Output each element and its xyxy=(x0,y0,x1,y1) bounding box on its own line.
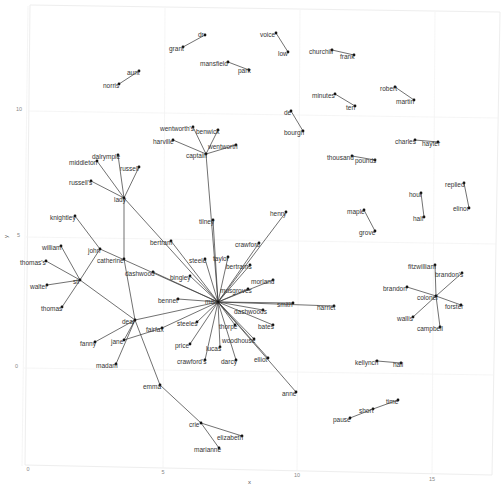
node-label: fairfax xyxy=(146,326,164,333)
node-label: darcy xyxy=(221,358,238,366)
node-label: bertrams xyxy=(226,263,252,270)
node-label: tilney xyxy=(199,218,215,226)
panel-border xyxy=(25,5,500,475)
node-label: thomas xyxy=(41,305,63,312)
x-axis-title: x xyxy=(248,479,251,485)
node-label: jane xyxy=(110,338,124,346)
node-label: fanny xyxy=(80,340,97,348)
node-label: marianne xyxy=(194,446,221,453)
node-label: dashwoods xyxy=(234,308,268,315)
y-axis-title: y xyxy=(3,235,9,238)
node-label: martin xyxy=(396,98,414,105)
node-label: dear xyxy=(122,318,136,325)
node-label: low xyxy=(278,50,288,57)
node-label: benwick xyxy=(196,128,220,135)
node-label: bourgh xyxy=(284,129,305,137)
node-label: crawford xyxy=(235,241,260,248)
node-label: crawford's xyxy=(177,358,207,365)
node-label: voice xyxy=(260,31,276,38)
x-tick-label: 10 xyxy=(294,472,300,478)
node-label: wentworth's xyxy=(159,125,195,132)
x-tick-label: 5 xyxy=(161,469,164,475)
node-label: hayter xyxy=(422,140,441,148)
node-label: john xyxy=(87,247,101,255)
node-label: harville xyxy=(153,138,174,145)
node-label: catherine xyxy=(97,257,124,264)
node-label: campbell xyxy=(417,325,444,333)
node-label: steele xyxy=(189,257,207,264)
node-label: wentworth xyxy=(207,143,238,150)
node-label: dashwood xyxy=(125,270,155,277)
node-label: hall xyxy=(393,361,404,368)
node-label: emma xyxy=(143,383,161,390)
node-label: thomas's xyxy=(20,259,47,266)
node-label: miss xyxy=(205,298,219,305)
node-label: taylor xyxy=(213,255,230,263)
node-label: robert xyxy=(380,85,397,92)
node-label: norris xyxy=(103,82,120,89)
node-label: madam xyxy=(96,362,118,369)
node-label: grant xyxy=(169,45,184,53)
node-label: bertram xyxy=(150,239,172,246)
node-label: forster xyxy=(445,303,464,310)
node-label: walter xyxy=(29,283,48,290)
node-label: anne xyxy=(282,390,297,397)
node-label: elliot xyxy=(254,356,268,363)
node-label: smith xyxy=(277,301,293,308)
node-label: bennet xyxy=(158,297,178,304)
node-label: pause xyxy=(333,416,351,424)
node-label: time xyxy=(386,398,399,405)
node-label: bates xyxy=(258,323,275,330)
node-label: half xyxy=(413,215,424,222)
node-label: thousand xyxy=(327,154,354,161)
node-label: kellynch xyxy=(355,359,379,367)
node-label: aunt xyxy=(127,69,140,76)
node-label: captain xyxy=(186,152,207,160)
node-label: ten xyxy=(346,104,355,111)
node-label: park xyxy=(238,67,251,75)
node-label: russell's xyxy=(69,179,93,186)
node-label: lucas xyxy=(206,345,222,352)
node-label: minutes xyxy=(312,92,336,99)
node-label: price xyxy=(175,342,189,350)
node-label: thorpe xyxy=(219,323,238,331)
node-crie xyxy=(200,422,203,425)
y-tick-label: 0 xyxy=(15,363,18,369)
node-label: mansfield xyxy=(200,60,228,67)
node-label: crie xyxy=(189,421,200,428)
node-label: lady xyxy=(114,196,127,204)
node-dr xyxy=(204,34,207,37)
node-label: brandon's xyxy=(435,271,464,278)
node-label: sir xyxy=(73,278,81,285)
node-label: charles xyxy=(395,138,417,145)
network-plot: missladycaptainsirdearcolonelcriejohncat… xyxy=(0,0,501,487)
node-label: woodhouse xyxy=(221,337,256,344)
node-label: de xyxy=(284,109,292,116)
x-tick-label: 0 xyxy=(26,466,29,472)
node-label: elinor xyxy=(453,205,470,212)
node-label: hour xyxy=(409,191,423,198)
node-label: fitzwilliam xyxy=(408,263,436,270)
node-label: morland xyxy=(251,278,275,285)
node-label: short xyxy=(359,407,374,414)
node-label: henry xyxy=(270,210,287,218)
node-label: middleton xyxy=(69,159,98,166)
node-label: wallis xyxy=(396,315,414,322)
node-label: russell xyxy=(120,165,139,172)
node-label: grove xyxy=(359,229,376,237)
node-label: colonel xyxy=(417,294,438,301)
node-label: bingley xyxy=(170,274,191,282)
node-label: churchill xyxy=(309,48,333,55)
node-label: maple xyxy=(347,208,365,216)
node-label: william xyxy=(41,244,62,251)
node-label: pounds xyxy=(355,157,377,165)
node-label: replied xyxy=(445,181,465,189)
node-label: dr xyxy=(198,31,205,38)
node-label: harriet xyxy=(317,304,336,311)
node-label: elizabeth xyxy=(217,434,243,441)
x-tick-label: 15 xyxy=(429,476,435,482)
node-label: knightley xyxy=(50,214,76,222)
node-label: steeles xyxy=(177,320,198,327)
y-tick-label: 5 xyxy=(17,232,20,238)
node-label: brandon xyxy=(383,285,407,292)
